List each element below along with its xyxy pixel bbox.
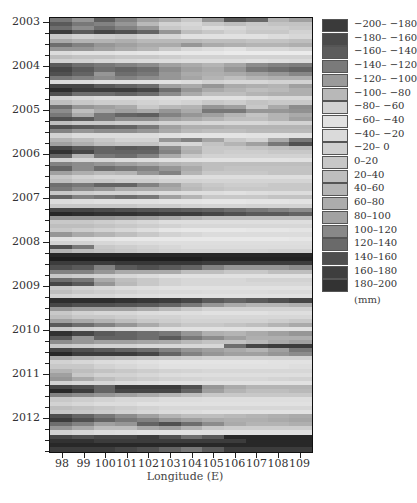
y-major-tick xyxy=(43,286,49,287)
y-tick-label-2005: 2005 xyxy=(4,103,40,116)
x-tick xyxy=(105,453,106,458)
y-minor-tick xyxy=(45,451,49,452)
y-tick-label-2004: 2004 xyxy=(4,59,40,72)
legend-label: 40–60 xyxy=(354,182,384,193)
heatmap-cell xyxy=(268,447,290,452)
y-major-tick xyxy=(43,374,49,375)
x-tick xyxy=(256,453,257,458)
x-tick xyxy=(278,453,279,458)
x-tick xyxy=(213,453,214,458)
y-minor-tick xyxy=(45,396,49,397)
y-minor-tick xyxy=(45,231,49,232)
y-tick-label-2009: 2009 xyxy=(4,279,40,292)
y-minor-tick xyxy=(45,55,49,56)
y-tick-label-2003: 2003 xyxy=(4,15,40,28)
y-minor-tick xyxy=(45,275,49,276)
legend-label: −140– −120 xyxy=(354,59,417,70)
y-minor-tick xyxy=(45,264,49,265)
y-minor-tick xyxy=(45,253,49,254)
legend-swatch xyxy=(322,101,348,114)
y-minor-tick xyxy=(45,143,49,144)
y-tick-label-2012: 2012 xyxy=(4,411,40,424)
legend-swatch xyxy=(322,279,348,292)
y-minor-tick xyxy=(45,99,49,100)
y-minor-tick xyxy=(45,165,49,166)
x-tick xyxy=(235,453,236,458)
legend-swatch xyxy=(322,183,348,196)
legend-swatch xyxy=(322,266,348,279)
y-minor-tick xyxy=(45,88,49,89)
y-tick-label-2011: 2011 xyxy=(4,367,40,380)
legend-label: 120–140 xyxy=(354,237,397,248)
y-minor-tick xyxy=(45,77,49,78)
y-minor-tick xyxy=(45,363,49,364)
y-major-tick xyxy=(43,198,49,199)
y-minor-tick xyxy=(45,132,49,133)
y-minor-tick xyxy=(45,385,49,386)
y-minor-tick xyxy=(45,319,49,320)
y-tick-label-2007: 2007 xyxy=(4,191,40,204)
x-tick xyxy=(148,453,149,458)
y-major-tick xyxy=(43,66,49,67)
legend-swatch xyxy=(322,156,348,169)
legend-label: 80–100 xyxy=(354,210,391,221)
legend-swatch xyxy=(322,46,348,59)
y-minor-tick xyxy=(45,220,49,221)
x-tick xyxy=(170,453,171,458)
y-minor-tick xyxy=(45,440,49,441)
heatmap-cell xyxy=(94,447,116,452)
heatmap-cells xyxy=(50,18,312,452)
legend-label: −200– −180 xyxy=(354,18,417,29)
x-axis-title: Longitude (E) xyxy=(140,470,230,483)
legend-swatch xyxy=(322,115,348,128)
heatmap-cell xyxy=(181,447,203,452)
heatmap-cell xyxy=(137,447,159,452)
heatmap-cell xyxy=(159,447,181,452)
y-tick-label-2010: 2010 xyxy=(4,323,40,336)
heatmap-cell xyxy=(50,447,72,452)
y-minor-tick xyxy=(45,341,49,342)
legend-swatch xyxy=(322,170,348,183)
y-major-tick xyxy=(43,242,49,243)
y-minor-tick xyxy=(45,121,49,122)
legend-swatch xyxy=(322,33,348,46)
legend-swatch xyxy=(322,211,348,224)
y-tick-label-2008: 2008 xyxy=(4,235,40,248)
legend-swatch xyxy=(322,19,348,32)
legend-label: 0–20 xyxy=(354,155,378,166)
y-tick-label-2006: 2006 xyxy=(4,147,40,160)
y-minor-tick xyxy=(45,33,49,34)
y-major-tick xyxy=(43,22,49,23)
legend-label: 160–180 xyxy=(354,265,397,276)
legend-swatch xyxy=(322,88,348,101)
heatmap-cell xyxy=(202,447,224,452)
y-minor-tick xyxy=(45,308,49,309)
legend-swatch xyxy=(322,142,348,155)
y-minor-tick xyxy=(45,429,49,430)
legend-label: −60– −40 xyxy=(354,114,404,125)
legend-swatch xyxy=(322,74,348,87)
legend-label: −40– −20 xyxy=(354,128,404,139)
y-minor-tick xyxy=(45,176,49,177)
legend-label: 100–120 xyxy=(354,224,397,235)
legend-swatch xyxy=(322,225,348,238)
y-minor-tick xyxy=(45,407,49,408)
legend-label: −100– −80 xyxy=(354,87,411,98)
legend-label: −120– −100 xyxy=(354,73,417,84)
y-major-tick xyxy=(43,330,49,331)
x-tick-label-109: 109 xyxy=(285,457,315,470)
legend-swatch xyxy=(322,252,348,265)
x-tick xyxy=(84,453,85,458)
y-minor-tick xyxy=(45,352,49,353)
legend-label: −180– −160 xyxy=(354,32,417,43)
x-tick xyxy=(127,453,128,458)
y-minor-tick xyxy=(45,209,49,210)
heatmap-cell xyxy=(72,447,94,452)
y-major-tick xyxy=(43,110,49,111)
legend-label: 180–200 xyxy=(354,278,397,289)
legend-swatch xyxy=(322,238,348,251)
x-tick xyxy=(62,453,63,458)
legend-unit-label: (mm) xyxy=(354,294,381,305)
legend-label: −20– 0 xyxy=(354,141,390,152)
legend-label: −160– −140 xyxy=(354,45,417,56)
